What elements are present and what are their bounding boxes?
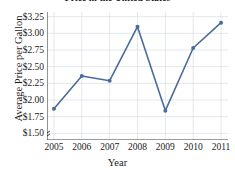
gas-price-line-chart: Price in the United States Average Price… — [0, 0, 235, 175]
y-tick-label: $1.50 — [2, 128, 44, 138]
y-tick-label: $2.75 — [2, 45, 44, 55]
y-tick-label: $1.75 — [2, 112, 44, 122]
plot-svg — [47, 12, 228, 140]
axis-ticks — [47, 17, 221, 140]
y-tick-label: $2.00 — [2, 95, 44, 105]
chart-title: Price in the United States — [0, 0, 235, 3]
y-tick-label: $3.25 — [2, 12, 44, 22]
y-tick-label: $2.50 — [2, 62, 44, 72]
x-tick-label: 2011 — [212, 142, 231, 152]
x-tick-label: 2007 — [100, 142, 119, 152]
y-tick-label: $2.25 — [2, 78, 44, 88]
gridlines — [47, 12, 228, 140]
x-axis-tick-labels: 2005200620072008200920102011 — [47, 142, 228, 156]
x-tick-label: 2009 — [156, 142, 175, 152]
plot-area — [47, 12, 228, 140]
x-tick-label: 2008 — [128, 142, 147, 152]
x-tick-label: 2010 — [184, 142, 203, 152]
x-tick-label: 2005 — [44, 142, 63, 152]
y-axis-tick-labels: $1.50$1.75$2.00$2.25$2.50$2.75$3.00$3.25 — [0, 12, 44, 140]
y-tick-label: $3.00 — [2, 28, 44, 38]
x-tick-label: 2006 — [72, 142, 91, 152]
x-axis-title: Year — [0, 157, 235, 168]
